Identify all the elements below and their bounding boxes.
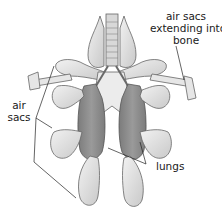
label-lungs: lungs: [156, 160, 184, 172]
trachea: [106, 14, 118, 66]
abdominal-air-sacs: [78, 156, 143, 206]
label-line-2: sacs: [2, 111, 36, 123]
label-air-sacs-extending-into-bone: air sacs extending into bone: [150, 10, 222, 46]
label-air-sacs: air sacs: [2, 99, 36, 123]
label-line-3: bone: [150, 34, 222, 46]
diagram-canvas: air sacs extending into bone air sacs lu…: [0, 0, 222, 211]
label-line-2: extending into: [150, 22, 222, 34]
label-line-1: air sacs: [150, 10, 222, 22]
label-line-1: air: [2, 99, 36, 111]
